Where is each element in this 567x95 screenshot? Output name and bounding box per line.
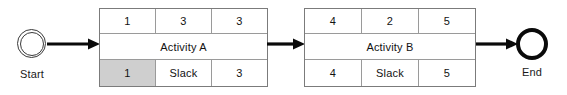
activity-b-top-cell-3: 5	[419, 9, 475, 33]
start-node-inner-ring	[20, 32, 44, 56]
arrow-start-to-activity-a-icon	[47, 38, 100, 50]
activity-a-bottom-row: 1 Slack 3	[100, 60, 267, 86]
activity-b-name: Activity B	[305, 34, 475, 59]
activity-b-name-row: Activity B	[305, 34, 475, 60]
activity-b-bottom-cell-1: 4	[305, 60, 362, 86]
activity-b-top-row: 4 2 5	[305, 9, 475, 34]
arrow-activity-b-to-end-icon	[476, 38, 518, 50]
activity-b-bottom-cell-3: 5	[419, 60, 475, 86]
activity-a-bottom-cell-1: 1	[100, 60, 156, 86]
activity-b-top-cell-2: 2	[362, 9, 419, 33]
end-node-label: End	[500, 66, 564, 78]
activity-b-bottom-cell-2: Slack	[362, 60, 419, 86]
activity-a-bottom-cell-2: Slack	[156, 60, 212, 86]
activity-b-bottom-row: 4 Slack 5	[305, 60, 475, 86]
activity-b-top-cell-1: 4	[305, 9, 362, 33]
activity-a-top-row: 1 3 3	[100, 9, 267, 34]
arrow-activity-a-to-activity-b-icon	[267, 38, 305, 50]
activity-a-top-cell-2: 3	[156, 9, 212, 33]
activity-a-bottom-cell-3: 3	[212, 60, 267, 86]
end-node-ring[interactable]	[516, 28, 548, 60]
activity-box-b[interactable]: 4 2 5 Activity B 4 Slack 5	[304, 8, 476, 87]
start-node-label: Start	[0, 68, 64, 80]
activity-a-name-row: Activity A	[100, 34, 267, 60]
activity-a-top-cell-3: 3	[212, 9, 267, 33]
activity-a-top-cell-1: 1	[100, 9, 156, 33]
activity-network-diagram: Start 1 3 3 Activity A 1 Slack 3	[0, 0, 567, 95]
activity-a-name: Activity A	[100, 34, 267, 59]
activity-box-a[interactable]: 1 3 3 Activity A 1 Slack 3	[99, 8, 268, 87]
